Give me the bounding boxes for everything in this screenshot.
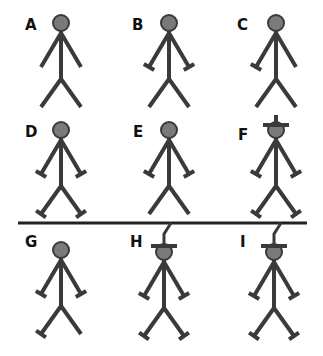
figure-e: E — [133, 122, 194, 214]
figure-label: H — [130, 233, 143, 251]
head — [53, 15, 69, 31]
left-hand — [251, 171, 261, 177]
right-leg — [61, 186, 81, 214]
right-hand — [184, 171, 194, 177]
figure-i: I — [240, 223, 299, 339]
left-leg — [256, 186, 276, 214]
left-arm — [254, 262, 274, 296]
right-arm — [61, 33, 81, 67]
left-hand — [249, 293, 259, 299]
figure-a: A — [25, 15, 81, 107]
right-hand — [76, 291, 86, 297]
left-leg — [149, 186, 169, 214]
head — [53, 122, 69, 138]
figure-c: C — [237, 15, 296, 107]
figure-g: G — [25, 233, 86, 337]
left-leg — [41, 186, 61, 214]
right-hand — [184, 64, 194, 70]
left-arm — [256, 140, 276, 174]
left-arm — [149, 33, 169, 67]
right-arm — [61, 260, 81, 294]
head — [53, 242, 69, 258]
left-leg — [41, 306, 61, 334]
figure-label: I — [240, 233, 246, 251]
hanging-hook — [274, 223, 281, 246]
left-leg — [144, 308, 164, 336]
figure-f: F — [238, 115, 301, 217]
left-leg — [41, 79, 61, 107]
hanging-hook — [164, 223, 171, 246]
figure-b: B — [132, 15, 194, 107]
left-hand — [251, 64, 261, 70]
right-hand — [291, 171, 301, 177]
right-arm — [169, 140, 189, 174]
right-hand — [179, 293, 189, 299]
right-leg — [61, 79, 81, 107]
left-leg — [149, 79, 169, 107]
figure-label: E — [133, 123, 143, 141]
left-arm — [144, 262, 164, 296]
left-leg — [256, 79, 276, 107]
figure-label: C — [237, 16, 248, 34]
figure-label: G — [25, 233, 37, 251]
figure-label: B — [132, 16, 143, 34]
right-arm — [276, 33, 296, 67]
figure-label: D — [25, 123, 37, 141]
head — [268, 15, 284, 31]
right-arm — [61, 140, 81, 174]
left-hand — [144, 64, 154, 70]
head — [161, 15, 177, 31]
right-hand — [289, 293, 299, 299]
left-arm — [41, 260, 61, 294]
right-leg — [276, 79, 296, 107]
figure-d: D — [25, 122, 86, 217]
left-hand — [36, 171, 46, 177]
figure-label: F — [238, 126, 248, 144]
left-hand — [36, 291, 46, 297]
left-hand — [144, 171, 154, 177]
figure-label: A — [25, 16, 37, 34]
right-leg — [61, 306, 81, 334]
stick-figure-diagram: ABCDEFGHI — [0, 0, 323, 356]
figure-h: H — [130, 223, 189, 339]
right-leg — [274, 308, 294, 336]
right-arm — [169, 33, 189, 67]
right-hand — [76, 171, 86, 177]
left-arm — [41, 33, 61, 67]
head — [161, 122, 177, 138]
right-arm — [164, 262, 184, 296]
right-leg — [169, 186, 189, 214]
left-arm — [149, 140, 169, 174]
left-hand — [139, 293, 149, 299]
right-leg — [169, 79, 189, 107]
left-arm — [256, 33, 276, 67]
left-leg — [254, 308, 274, 336]
right-arm — [276, 140, 296, 174]
right-arm — [274, 262, 294, 296]
right-leg — [276, 186, 296, 214]
left-arm — [41, 140, 61, 174]
right-leg — [164, 308, 184, 336]
